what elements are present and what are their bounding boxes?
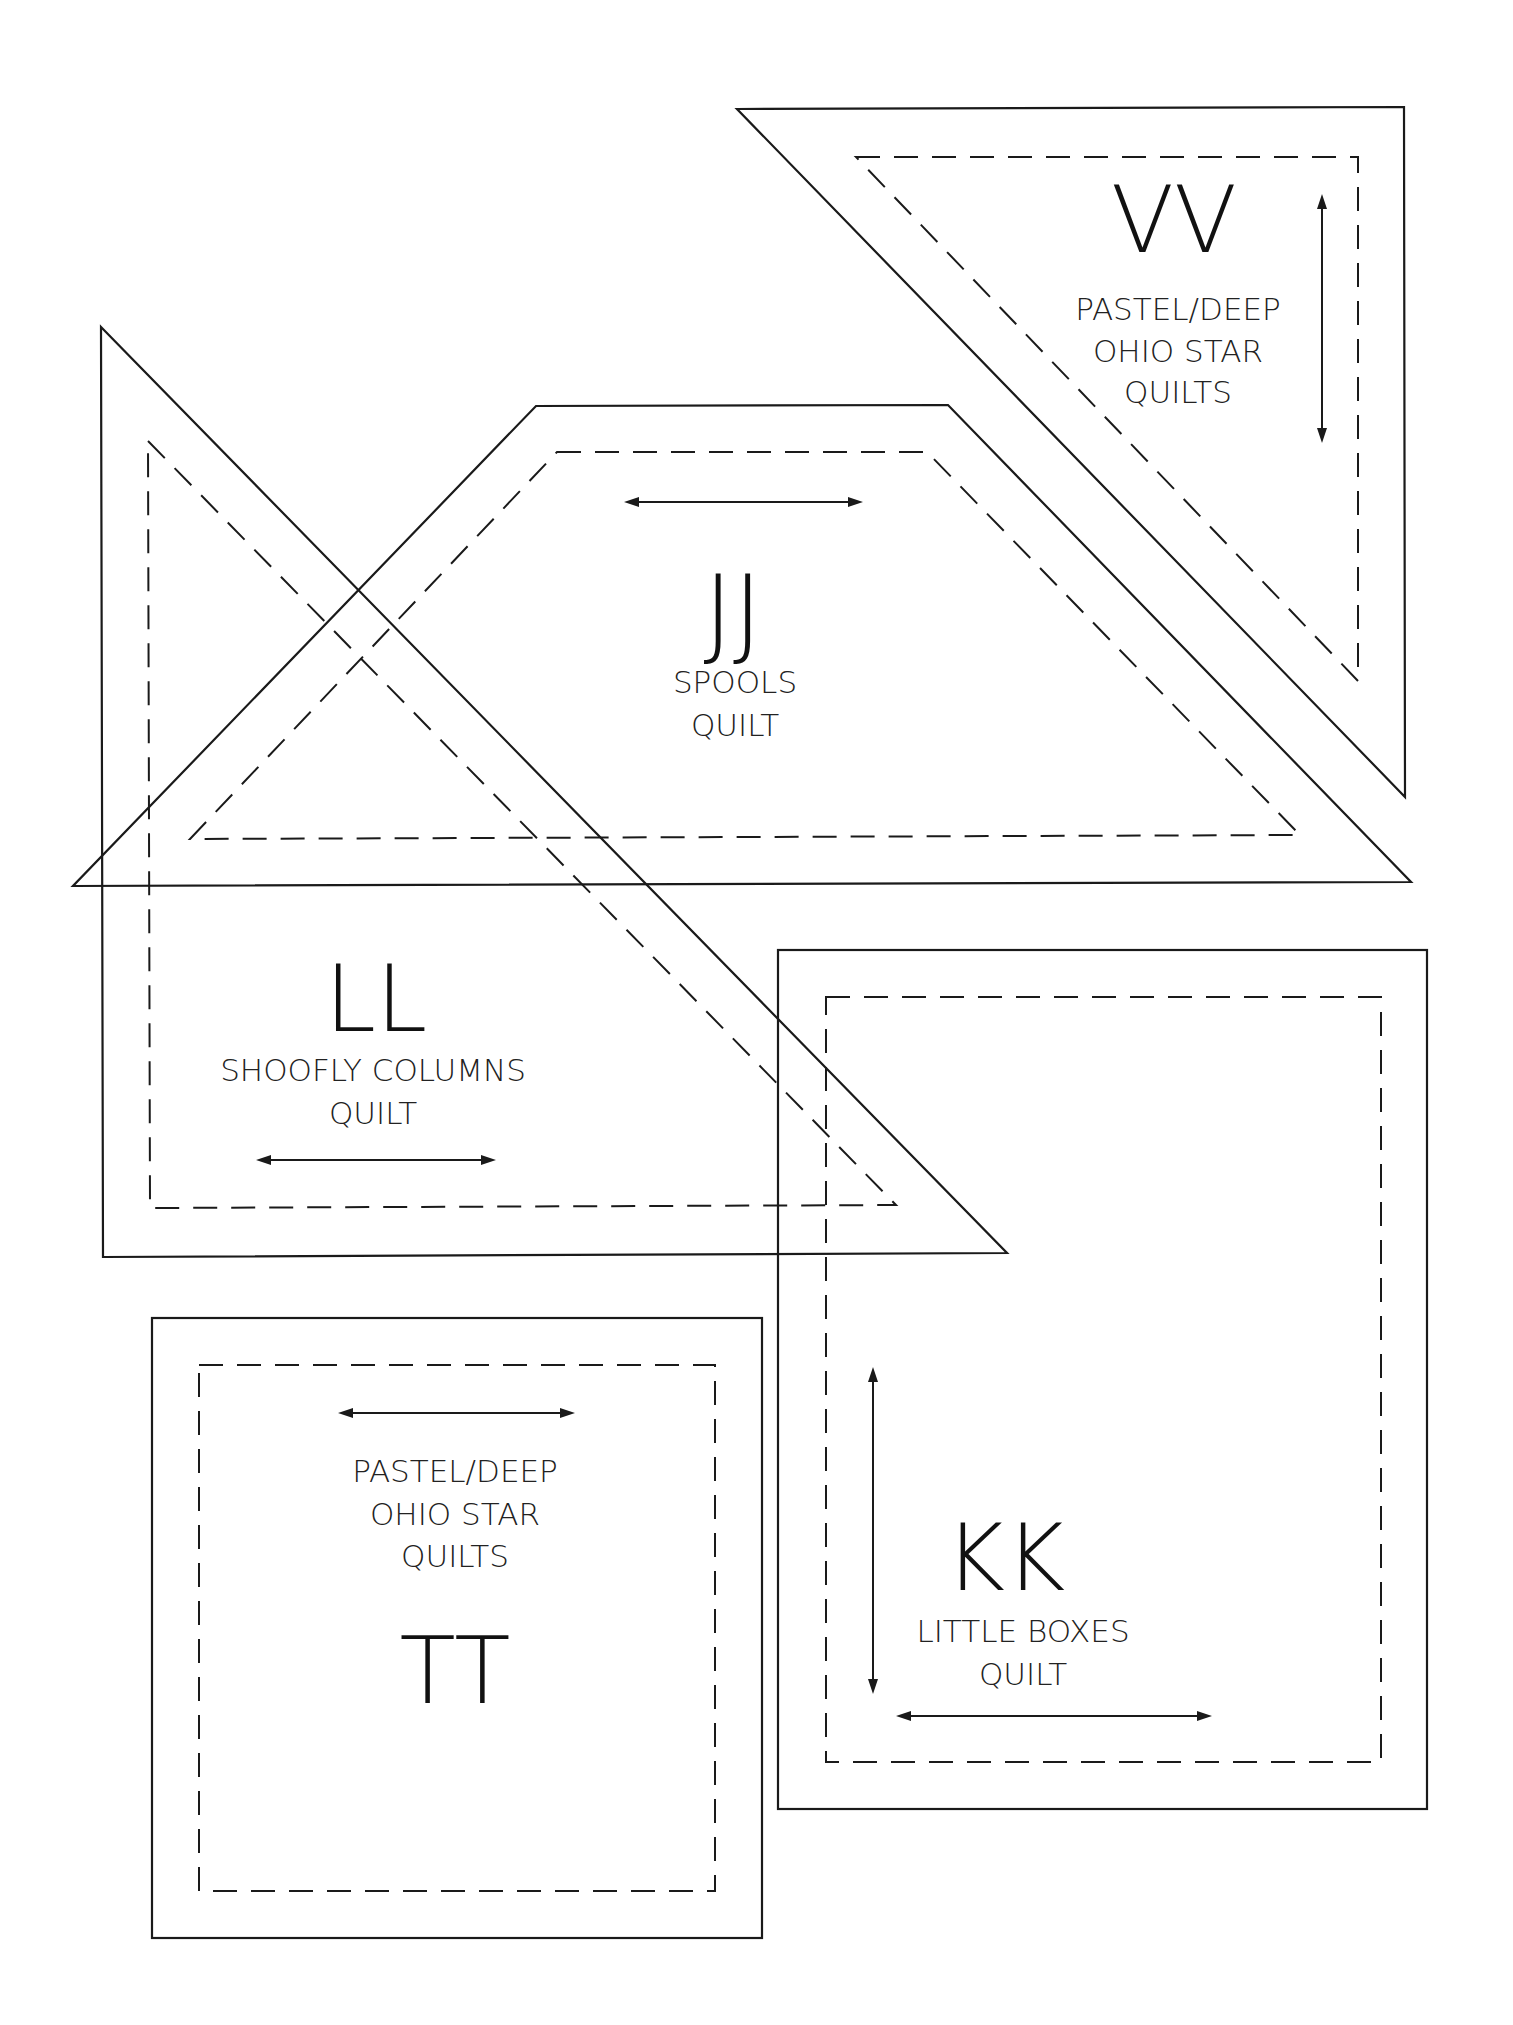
vv-caption-line-2: OHIO STAR [1093,333,1263,369]
vv-caption-line-1: PASTEL/DEEP [1075,291,1281,327]
jj-grain-arrow-icon [624,497,863,507]
jj-caption-line-1: SPOOLS [673,664,797,700]
ll-caption-line-2: QUILT [329,1095,417,1131]
vv-seam-line [856,157,1358,681]
tt-caption-line-2: OHIO STAR [370,1496,540,1532]
quilt-template-sheet: VV PASTEL/DEEP OHIO STAR QUILTS JJ SPOOL… [0,0,1513,2025]
tt-caption-line-3: QUILTS [401,1538,509,1574]
template-tt: PASTEL/DEEP OHIO STAR QUILTS TT [152,1318,762,1938]
vv-caption-line-3: QUILTS [1124,374,1232,410]
tt-grain-arrow-icon [338,1408,575,1418]
ll-cutting-line [101,327,1007,1257]
ll-letter: LL [325,946,428,1053]
kk-caption-line-1: LITTLE BOXES [916,1613,1129,1649]
vv-grain-arrow-icon [1317,194,1327,443]
jj-caption-line-2: QUILT [691,707,779,743]
ll-seam-line [148,441,896,1208]
tt-letter: TT [400,1618,511,1725]
kk-horizontal-grain-arrow-icon [896,1711,1212,1721]
kk-caption-line-2: QUILT [979,1656,1067,1692]
vv-letter: VV [1111,167,1237,274]
kk-letter: KK [945,1505,1066,1612]
tt-caption-line-1: PASTEL/DEEP [352,1453,558,1489]
jj-letter: JJ [704,553,763,670]
ll-grain-arrow-icon [256,1155,496,1165]
ll-caption-line-1: SHOOFLY COLUMNS [220,1052,526,1088]
template-jj: JJ SPOOLS QUILT [73,405,1411,886]
kk-vertical-grain-arrow-icon [868,1367,878,1694]
template-kk: KK LITTLE BOXES QUILT [778,950,1427,1809]
template-ll: LL SHOOFLY COLUMNS QUILT [101,327,1007,1257]
